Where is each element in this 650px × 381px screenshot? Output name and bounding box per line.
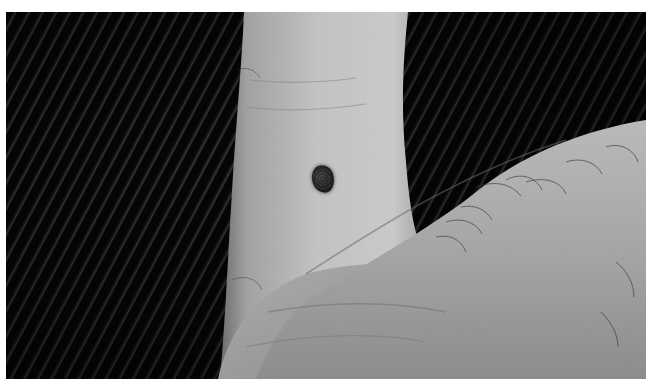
photo — [6, 12, 646, 379]
hand-skin — [6, 12, 646, 379]
